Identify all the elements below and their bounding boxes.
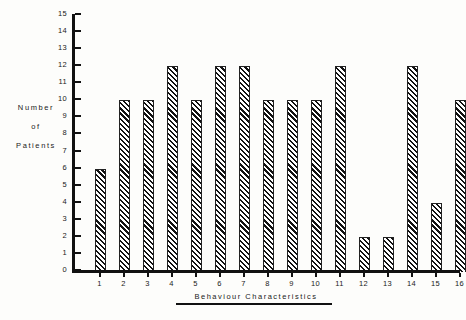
y-axis-tick-label: 14: [45, 26, 67, 35]
x-axis-tick: [99, 273, 101, 277]
x-axis-tick: [363, 273, 365, 277]
bar: [431, 203, 442, 272]
x-axis-tick-label: 13: [378, 279, 398, 288]
y-axis-tick-label: 13: [45, 43, 67, 52]
x-axis-tick: [459, 273, 461, 277]
x-axis-tick-label: 12: [354, 279, 374, 288]
y-axis-tick-label: 2: [45, 231, 67, 240]
bar: [95, 169, 106, 272]
y-axis-tick-label: 4: [45, 197, 67, 206]
bar: [359, 237, 370, 272]
x-axis-tick-label: 5: [186, 279, 206, 288]
x-axis-tick: [291, 273, 293, 277]
y-axis-tick-label: 7: [45, 146, 67, 155]
x-axis-tick-label: 14: [402, 279, 422, 288]
x-axis-tick: [195, 273, 197, 277]
x-axis-title: Behaviour Characteristics: [176, 292, 336, 301]
bar: [335, 66, 346, 272]
x-axis-tick: [147, 273, 149, 277]
x-axis-tick: [171, 273, 173, 277]
y-axis-tick-label: 0: [45, 265, 67, 274]
bar: [311, 100, 322, 272]
bar: [215, 66, 226, 272]
y-axis-tick-label: 15: [45, 9, 67, 18]
x-axis-tick-label: 10: [306, 279, 326, 288]
x-axis-tick: [243, 273, 245, 277]
x-axis-tick: [387, 273, 389, 277]
x-axis-tick: [339, 273, 341, 277]
bar: [455, 100, 466, 272]
x-axis-tick-label: 1: [90, 279, 110, 288]
x-axis-tick-label: 2: [114, 279, 134, 288]
y-axis-tick-label: 9: [45, 111, 67, 120]
x-axis-title-group: Behaviour Characteristics: [176, 292, 336, 305]
bar-chart-figure: Number of Patients 012345678910111213141…: [0, 0, 466, 320]
x-axis-tick-label: 15: [426, 279, 446, 288]
y-axis-tick-label: 11: [45, 77, 67, 86]
x-axis-tick-label: 16: [450, 279, 466, 288]
y-axis-tick-label: 8: [45, 128, 67, 137]
x-axis-tick-label: 4: [162, 279, 182, 288]
x-axis-tick: [219, 273, 221, 277]
bar: [287, 100, 298, 272]
bar: [239, 66, 250, 272]
x-axis-tick: [123, 273, 125, 277]
y-axis-tick-label: 5: [45, 180, 67, 189]
x-axis-tick-label: 9: [282, 279, 302, 288]
y-axis-tick-label: 12: [45, 60, 67, 69]
x-axis-title-rule: [176, 303, 332, 305]
x-axis-tick: [267, 273, 269, 277]
bar: [407, 66, 418, 272]
x-axis-tick-label: 3: [138, 279, 158, 288]
bar: [263, 100, 274, 272]
x-axis-tick-label: 8: [258, 279, 278, 288]
y-axis-tick-label: 1: [45, 248, 67, 257]
bar: [383, 237, 394, 272]
bar: [167, 66, 178, 272]
bar: [191, 100, 202, 272]
y-axis-tick-label: 3: [45, 214, 67, 223]
bar: [143, 100, 154, 272]
x-axis-tick: [315, 273, 317, 277]
y-axis-tick-label: 6: [45, 163, 67, 172]
x-axis-tick-label: 6: [210, 279, 230, 288]
bar: [119, 100, 130, 272]
x-axis-tick: [411, 273, 413, 277]
y-axis-tick-label: 10: [45, 94, 67, 103]
plot-area: [75, 14, 466, 272]
x-axis-tick: [435, 273, 437, 277]
x-axis-tick-label: 7: [234, 279, 254, 288]
x-axis-tick-label: 11: [330, 279, 350, 288]
